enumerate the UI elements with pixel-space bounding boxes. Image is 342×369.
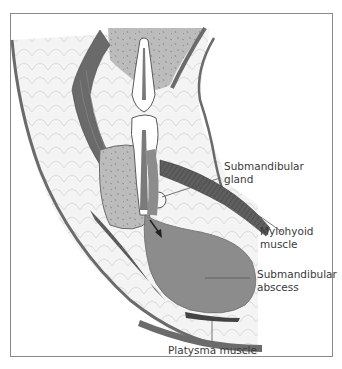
label-submandibular-gland: Submandibular gland bbox=[224, 160, 304, 186]
label-mylohyoid-muscle: Mylohyoid muscle bbox=[260, 225, 314, 251]
label-platysma-muscle: Platysma muscle bbox=[168, 344, 257, 357]
label-submandibular-abscess: Submandibular abscess bbox=[257, 268, 337, 294]
